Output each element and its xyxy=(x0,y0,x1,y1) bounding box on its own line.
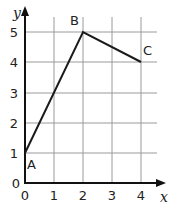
svg-text:2: 2 xyxy=(10,116,18,131)
svg-text:0: 0 xyxy=(12,176,20,191)
svg-text:3: 3 xyxy=(108,188,116,203)
x-axis-arrow-icon xyxy=(156,179,166,187)
point-label-c: C xyxy=(143,43,152,58)
svg-text:1: 1 xyxy=(50,188,58,203)
line-chart: y x 0 1 2 3 4 5 0 1 2 3 4 A B C xyxy=(0,0,174,215)
svg-text:3: 3 xyxy=(10,86,18,101)
axes xyxy=(24,14,158,184)
svg-text:4: 4 xyxy=(10,55,18,70)
svg-text:5: 5 xyxy=(10,25,18,40)
x-axis-label: x xyxy=(160,189,168,205)
svg-text:2: 2 xyxy=(79,188,87,203)
y-axis-arrow-icon xyxy=(21,6,29,16)
y-tick-labels: 0 1 2 3 4 5 xyxy=(10,25,20,191)
grid xyxy=(25,17,157,183)
svg-text:1: 1 xyxy=(10,146,18,161)
y-axis-label: y xyxy=(12,5,22,21)
x-tick-labels: 0 1 2 3 4 xyxy=(21,188,145,203)
svg-text:4: 4 xyxy=(137,188,145,203)
svg-text:0: 0 xyxy=(21,188,29,203)
point-label-b: B xyxy=(70,13,79,28)
point-label-a: A xyxy=(27,157,36,172)
